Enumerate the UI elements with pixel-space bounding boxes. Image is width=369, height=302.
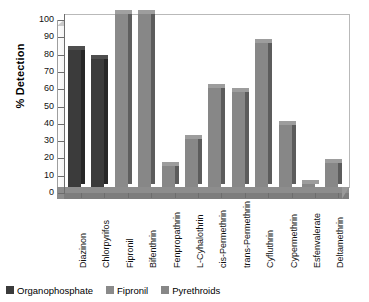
bar-face <box>255 43 268 187</box>
x-tick-mark <box>81 193 82 198</box>
bar-side <box>221 85 225 184</box>
bar-face <box>162 166 175 187</box>
x-tick-mark <box>315 193 316 198</box>
legend-label: Fipronil <box>117 285 148 296</box>
bar <box>279 125 292 187</box>
bar <box>325 163 338 187</box>
x-tick-mark <box>221 193 222 198</box>
y-tick-label: 60 <box>26 84 54 93</box>
bar <box>302 184 315 187</box>
x-axis-label: L-Cyhalothrin <box>196 214 205 268</box>
chart-legend: OrganophosphateFipronilPyrethroids <box>6 283 366 297</box>
x-tick-mark <box>292 193 293 198</box>
x-axis-label: Fipronil <box>126 238 135 268</box>
plot-area: 0102030405060708090100 DiazinonChlorpyri… <box>0 0 369 302</box>
bar-side <box>175 163 179 184</box>
y-tick-label: 70 <box>26 67 54 76</box>
legend-item: Fipronil <box>106 285 148 296</box>
bar <box>208 88 221 187</box>
legend-swatch <box>106 286 114 294</box>
bar-side <box>81 47 85 184</box>
bar-side <box>128 11 132 184</box>
x-axis-label: Diazinon <box>79 233 88 268</box>
y-tick-label: 10 <box>26 171 54 180</box>
bar-side <box>292 122 296 184</box>
bar-chart: % Detection 0102030405060708090100 Diazi… <box>0 0 369 302</box>
bar-face <box>325 163 338 187</box>
bar-side <box>198 136 202 184</box>
bar <box>162 166 175 187</box>
bar <box>185 139 198 187</box>
x-axis-label: Fenpropathrin <box>173 212 182 268</box>
legend-item: Organophosphate <box>6 285 93 296</box>
legend-label: Organophosphate <box>17 285 93 296</box>
bar-side <box>268 40 272 184</box>
y-tick-label: 40 <box>26 119 54 128</box>
x-axis-label: Cyfluthrin <box>266 230 275 268</box>
bar-side <box>245 89 249 184</box>
bar-side <box>151 11 155 184</box>
y-tick-label: 30 <box>26 136 54 145</box>
legend-label: Pyrethroids <box>172 285 220 296</box>
x-axis-label: Cypermethrin <box>290 214 299 268</box>
bar-side <box>104 56 108 184</box>
bar-side <box>338 160 342 184</box>
bar <box>138 14 151 187</box>
y-tick-mark <box>58 193 65 194</box>
x-axis-label: Deltamethrin <box>336 217 345 268</box>
x-axis-label: cis-Permethrin <box>219 210 228 268</box>
y-tick-label: 80 <box>26 50 54 59</box>
bar-face <box>91 59 104 187</box>
x-tick-mark <box>104 193 105 198</box>
bar <box>91 59 104 187</box>
bar-face <box>279 125 292 187</box>
y-tick-label: 20 <box>26 153 54 162</box>
bar <box>68 50 81 187</box>
y-tick-label: 90 <box>26 32 54 41</box>
bar <box>115 14 128 187</box>
x-tick-mark <box>245 193 246 198</box>
x-tick-mark <box>198 193 199 198</box>
x-axis-label: Esfenvalerate <box>313 213 322 268</box>
x-tick-mark <box>338 193 339 198</box>
bar-face <box>185 139 198 187</box>
bar-face <box>208 88 221 187</box>
bar-face <box>68 50 81 187</box>
x-tick-mark <box>175 193 176 198</box>
legend-swatch <box>161 286 169 294</box>
y-tick-label: 50 <box>26 102 54 111</box>
x-axis-labels: DiazinonChlorpyrifosFipronilBifenthrinFe… <box>64 200 349 272</box>
bar-face <box>232 92 245 187</box>
x-axis-label: Bifenthrin <box>149 230 158 268</box>
bar <box>232 92 245 187</box>
y-tick-label: 100 <box>26 15 54 24</box>
legend-swatch <box>6 286 14 294</box>
x-axis-label: trans-Permethrin <box>243 201 252 268</box>
bar-series-container <box>64 14 349 193</box>
x-axis-label: Chlorpyrifos <box>102 220 111 268</box>
x-tick-mark <box>151 193 152 198</box>
x-tick-mark <box>128 193 129 198</box>
bar <box>255 43 268 187</box>
y-tick-label: 0 <box>26 188 54 197</box>
legend-item: Pyrethroids <box>161 285 220 296</box>
bar-face <box>138 14 151 187</box>
x-tick-mark <box>268 193 269 198</box>
bar-face <box>302 184 315 187</box>
bar-face <box>115 14 128 187</box>
